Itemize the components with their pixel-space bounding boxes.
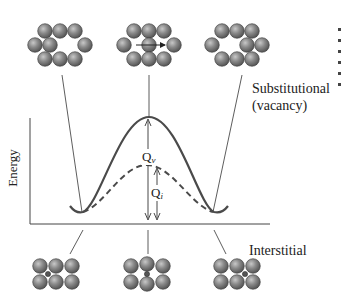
qv-label-main: Q	[142, 149, 151, 164]
substitutional-label-line1: Substitutional	[252, 80, 330, 97]
interstitial-atom-icon	[144, 271, 149, 276]
qi-label: Qi	[150, 185, 164, 201]
substitutional-label-line2: (vacancy)	[252, 97, 330, 114]
bottom-connectors	[70, 230, 226, 254]
cropped-text-edge	[338, 28, 342, 108]
bottom-cluster-final	[214, 259, 261, 290]
qv-label-sub: v	[151, 155, 155, 165]
interstitial-atom-icon	[242, 271, 247, 276]
qi-label-main: Q	[151, 185, 160, 200]
bottom-cluster-initial	[33, 259, 80, 290]
interstitial-atom-icon	[45, 271, 50, 276]
qi-label-sub: i	[160, 191, 163, 201]
qv-arrow-icon	[145, 119, 151, 220]
bottom-cluster-jumping	[124, 257, 171, 292]
interstitial-label: Interstitial	[249, 243, 307, 259]
top-cluster-jumping	[117, 24, 182, 67]
diffusion-energy-diagram: Substitutional (vacancy) Interstitial En…	[0, 0, 342, 297]
top-cluster-initial	[28, 24, 93, 67]
qv-label: Qv	[141, 149, 156, 165]
y-axis-label: Energy	[5, 149, 21, 186]
axes	[30, 118, 270, 224]
top-cluster-final	[205, 24, 270, 67]
substitutional-label: Substitutional (vacancy)	[252, 80, 330, 114]
